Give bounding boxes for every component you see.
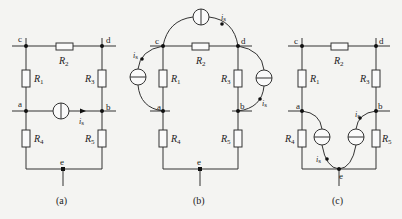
- node-c: [300, 44, 304, 48]
- node-a: [161, 109, 165, 113]
- label-a: a: [18, 99, 22, 109]
- label-r1: R1: [170, 73, 181, 86]
- label-e: e: [60, 157, 64, 167]
- label-d: d: [379, 36, 384, 46]
- resistor-r5: [98, 130, 106, 147]
- resistor-r2: [56, 43, 73, 50]
- label-r3: R3: [84, 73, 95, 86]
- resistor-r3: [372, 70, 380, 87]
- label-r2: R2: [58, 55, 69, 68]
- node-d: [236, 44, 240, 48]
- node-e: [198, 167, 202, 171]
- node-d: [100, 44, 104, 48]
- caption-b: (b): [193, 195, 205, 207]
- resistor-r3: [98, 70, 106, 87]
- label-b: b: [106, 102, 111, 112]
- resistor-r4: [159, 130, 167, 147]
- label-r3: R3: [220, 73, 231, 86]
- resistor-r5: [234, 130, 242, 147]
- node-e: [61, 167, 65, 171]
- node-d: [374, 44, 378, 48]
- label-r4: R4: [284, 133, 295, 146]
- node-a: [300, 109, 304, 113]
- label-d: d: [106, 35, 111, 45]
- arc-e-source: [339, 145, 356, 169]
- label-c: c: [155, 36, 159, 46]
- label-b: b: [378, 101, 383, 111]
- circuit-figure: c d a b e R2 R1 R3 R4 R5 is (a): [0, 0, 402, 219]
- label-b: b: [240, 101, 245, 111]
- arrow-icon: [80, 109, 86, 114]
- label-r3: R3: [359, 73, 370, 86]
- resistor-r1: [22, 70, 30, 87]
- arc-source-e: [322, 145, 339, 169]
- resistor-r4: [298, 130, 306, 147]
- resistor-r1: [159, 70, 167, 87]
- label-d: d: [241, 36, 246, 46]
- node-c: [161, 44, 165, 48]
- label-r4: R4: [170, 133, 181, 146]
- label-e: e: [197, 157, 201, 167]
- resistor-r2: [331, 43, 348, 50]
- node-b: [100, 109, 104, 113]
- label-r2: R2: [195, 55, 206, 68]
- node-a: [24, 109, 28, 113]
- label-is: is: [316, 155, 321, 165]
- label-c: c: [294, 36, 298, 46]
- node-c: [24, 44, 28, 48]
- label-is: is: [355, 110, 360, 120]
- panel-c: c d a b e R2 R1 R3 R4 R5 is is (c): [284, 36, 392, 207]
- arc-c-source: [163, 17, 193, 46]
- panel-b: c d a b e R2 R1 R3 R4 R5 is is is (b): [130, 9, 272, 207]
- label-c: c: [18, 34, 22, 44]
- label-r5: R5: [381, 133, 392, 146]
- label-is: is: [221, 13, 226, 23]
- resistor-r1: [298, 70, 306, 87]
- panel-a: c d a b e R2 R1 R3 R4 R5 is (a): [12, 34, 116, 207]
- label-r1: R1: [33, 73, 44, 86]
- label-r5: R5: [84, 133, 95, 146]
- label-is: is: [79, 117, 84, 127]
- resistor-r4: [22, 130, 30, 147]
- label-a: a: [296, 101, 300, 111]
- label-a: a: [157, 102, 161, 112]
- caption-a: (a): [56, 195, 67, 207]
- arrow-icon: [140, 57, 144, 61]
- label-r5: R5: [220, 133, 231, 146]
- resistor-r5: [372, 130, 380, 147]
- label-r1: R1: [309, 73, 320, 86]
- arc-a-source: [302, 111, 322, 129]
- label-e: e: [339, 171, 343, 181]
- arc-d-right: [238, 46, 264, 70]
- label-is: is: [133, 51, 138, 61]
- label-r4: R4: [33, 133, 44, 146]
- arrow-icon: [325, 157, 329, 161]
- resistor-r3: [234, 70, 242, 87]
- caption-c: (c): [332, 195, 343, 207]
- label-r2: R2: [333, 55, 344, 68]
- label-is: is: [262, 99, 267, 109]
- resistor-r2: [192, 43, 209, 50]
